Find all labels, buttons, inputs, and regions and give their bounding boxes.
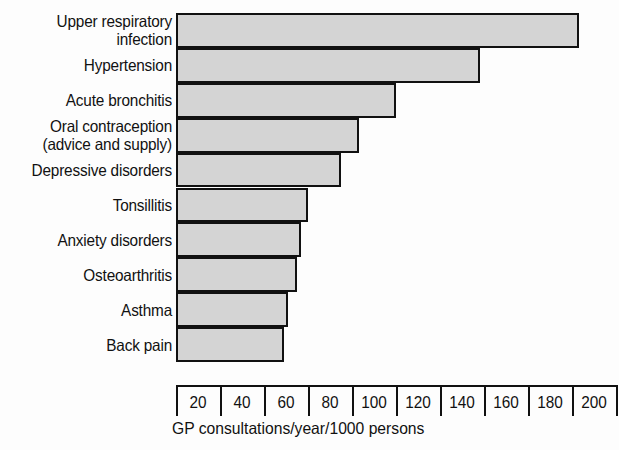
plot-area bbox=[176, 13, 616, 362]
category-label-column: Upper respiratory infectionHypertensionA… bbox=[0, 13, 172, 362]
bar bbox=[176, 257, 297, 292]
category-label: Upper respiratory infection bbox=[12, 12, 172, 48]
category-label: Back pain bbox=[12, 336, 172, 354]
axis-tick-label: 100 bbox=[354, 393, 395, 411]
category-label: Acute bronchitis bbox=[12, 91, 172, 109]
category-label: Osteoarthritis bbox=[12, 266, 172, 284]
axis-tick-label: 60 bbox=[266, 393, 307, 411]
axis-tick-label: 140 bbox=[442, 393, 483, 411]
x-axis-label: GP consultations/year/1000 persons bbox=[172, 419, 424, 438]
category-label: Oral contraception (advice and supply) bbox=[12, 117, 172, 153]
bar bbox=[176, 327, 284, 362]
x-axis: 20406080100120140160180200 bbox=[176, 385, 616, 416]
axis-tick-label: 180 bbox=[530, 393, 571, 411]
category-label: Hypertension bbox=[12, 56, 172, 74]
bar-row bbox=[176, 13, 616, 48]
gp-consultations-bar-chart: Upper respiratory infectionHypertensionA… bbox=[0, 0, 619, 450]
axis-tick-label: 120 bbox=[398, 393, 439, 411]
bar bbox=[176, 153, 341, 188]
category-label: Depressive disorders bbox=[12, 161, 172, 179]
axis-tick-label: 40 bbox=[222, 393, 263, 411]
bar bbox=[176, 188, 308, 223]
bar bbox=[176, 83, 396, 118]
bar bbox=[176, 118, 359, 153]
bar-row bbox=[176, 222, 616, 257]
category-label: Anxiety disorders bbox=[12, 231, 172, 249]
bar bbox=[176, 48, 480, 83]
bar bbox=[176, 13, 579, 48]
category-label: Tonsillitis bbox=[12, 196, 172, 214]
axis-tick bbox=[616, 385, 618, 416]
bar-row bbox=[176, 292, 616, 327]
bar bbox=[176, 292, 288, 327]
bar bbox=[176, 222, 301, 257]
bar-row bbox=[176, 188, 616, 223]
axis-tick-label: 20 bbox=[178, 393, 219, 411]
bar-row bbox=[176, 257, 616, 292]
bar-row bbox=[176, 118, 616, 153]
bar-row bbox=[176, 153, 616, 188]
axis-tick-label: 160 bbox=[486, 393, 527, 411]
category-label: Asthma bbox=[12, 301, 172, 319]
bar-row bbox=[176, 48, 616, 83]
axis-tick-label: 80 bbox=[310, 393, 351, 411]
axis-tick-label: 200 bbox=[574, 393, 615, 411]
bar-row bbox=[176, 327, 616, 362]
bar-row bbox=[176, 83, 616, 118]
